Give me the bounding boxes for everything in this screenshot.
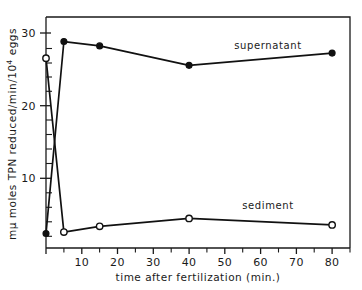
x-tick-label-30: 30 [146, 256, 161, 269]
x-tick-label-20: 20 [110, 256, 125, 269]
x-tick-label-10: 10 [74, 256, 89, 269]
data-point-supernatant-0 [43, 231, 49, 237]
data-point-sediment-15 [96, 223, 102, 229]
data-point-supernatant-80 [329, 50, 335, 56]
x-tick-label-70: 70 [289, 256, 304, 269]
y-axis-title-prefix: mμ moles TPN reduced/min/10 [6, 64, 18, 240]
data-point-sediment-0 [43, 55, 49, 61]
x-tick-label-40: 40 [182, 256, 197, 269]
x-axis-minor-ticks [64, 248, 350, 253]
x-axis-title: time after fertilization (min.) [116, 271, 281, 283]
data-point-supernatant-5 [61, 39, 67, 45]
sediment-label: sediment [242, 200, 293, 211]
x-tick-label-60: 60 [253, 256, 268, 269]
frame-top-right-border [46, 17, 350, 248]
y-tick-label-30: 30 [21, 27, 36, 40]
data-point-supernatant-15 [97, 43, 103, 49]
x-tick-label-50: 50 [217, 256, 232, 269]
supernatant-label: supernatant [234, 40, 301, 51]
y-axis-title: mμ moles TPN reduced/min/104 eggs [5, 28, 18, 240]
plot-frame [46, 17, 350, 248]
y-tick-label-20: 20 [21, 100, 36, 113]
data-point-sediment-40 [186, 215, 192, 221]
data-point-sediment-5 [61, 229, 67, 235]
y-axis-title-suffix: eggs [6, 28, 18, 59]
data-point-supernatant-40 [186, 62, 192, 68]
y-tick-label-10: 10 [21, 172, 36, 185]
data-point-sediment-80 [329, 222, 335, 228]
line-chart: 30 20 10 10 20 30 [0, 0, 362, 290]
svg-text:mμ moles TPN reduced/min/104 e: mμ moles TPN reduced/min/104 eggs [5, 28, 18, 240]
figure-container: 30 20 10 10 20 30 [0, 0, 362, 290]
x-axis-major-ticks [46, 248, 332, 254]
x-tick-label-80: 80 [325, 256, 340, 269]
